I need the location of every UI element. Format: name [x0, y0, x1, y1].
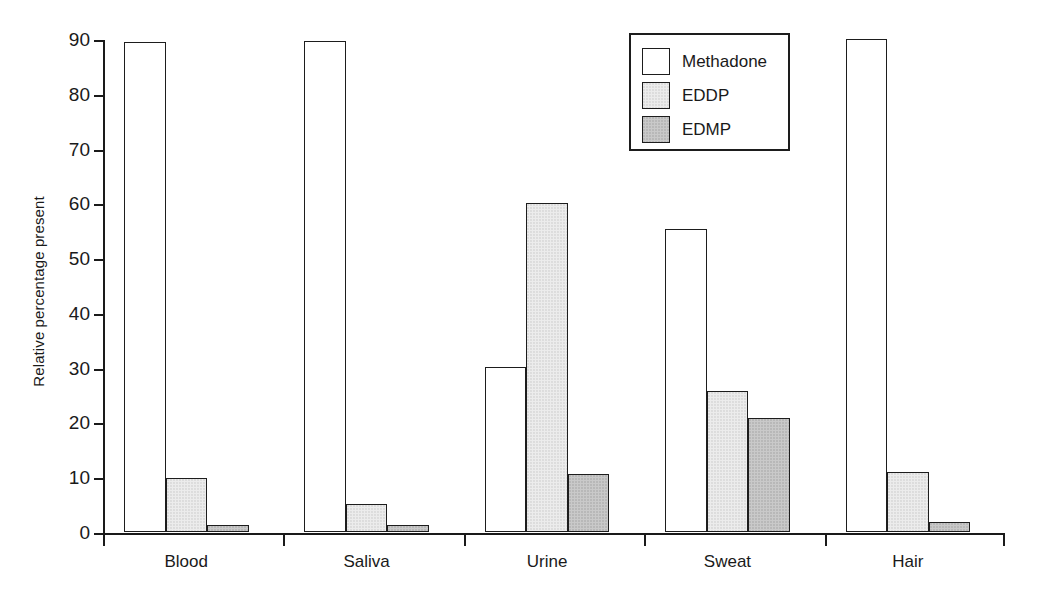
- x-tick-mark: [103, 535, 105, 546]
- bar: [387, 525, 429, 532]
- bar: [846, 39, 888, 532]
- x-axis-category-label: Sweat: [704, 552, 751, 572]
- y-tick-mark: [94, 369, 103, 371]
- y-tick-label: 50: [69, 248, 90, 270]
- y-tick-label: 60: [69, 193, 90, 215]
- y-tick-label: 70: [69, 139, 90, 161]
- y-tick-label: 0: [79, 522, 90, 544]
- y-tick-mark: [94, 478, 103, 480]
- y-axis-line: [103, 40, 105, 535]
- bar: [124, 42, 166, 532]
- y-tick-mark: [94, 259, 103, 261]
- x-axis-line: [103, 533, 1005, 535]
- y-tick-label: 80: [69, 84, 90, 106]
- legend-swatch: [642, 116, 670, 143]
- plot-area: 0102030405060708090 BloodSalivaUrineSwea…: [103, 40, 1005, 534]
- y-tick-mark: [94, 150, 103, 152]
- bar: [207, 525, 249, 532]
- x-tick-mark: [644, 535, 646, 546]
- x-tick-mark: [825, 535, 827, 546]
- bar: [929, 522, 971, 532]
- chart-legend: MethadoneEDDPEDMP: [629, 33, 790, 151]
- legend-item: Methadone: [642, 45, 788, 78]
- y-tick-label: 10: [69, 467, 90, 489]
- legend-label: EDMP: [682, 120, 731, 140]
- y-tick-label: 40: [69, 303, 90, 325]
- legend-swatch: [642, 48, 670, 75]
- bar: [568, 474, 610, 532]
- legend-item: EDMP: [642, 113, 788, 146]
- bar: [887, 472, 929, 532]
- y-tick-mark: [94, 423, 103, 425]
- y-axis-title: Relative percentage present: [30, 172, 47, 412]
- bar: [665, 229, 707, 532]
- bar: [707, 391, 749, 532]
- x-tick-mark: [283, 535, 285, 546]
- y-tick-mark: [94, 314, 103, 316]
- bar: [304, 41, 346, 532]
- y-tick-mark: [94, 40, 103, 42]
- legend-label: EDDP: [682, 86, 729, 106]
- y-tick-label: 20: [69, 412, 90, 434]
- bar-chart: Relative percentage present 010203040506…: [0, 0, 1039, 596]
- y-tick-mark: [94, 533, 103, 535]
- x-axis-category-label: Saliva: [343, 552, 389, 572]
- bar: [526, 203, 568, 532]
- y-tick-mark: [94, 204, 103, 206]
- x-axis-category-label: Hair: [892, 552, 923, 572]
- bar: [346, 504, 388, 532]
- y-tick-label: 90: [69, 29, 90, 51]
- y-tick-label: 30: [69, 358, 90, 380]
- legend-swatch: [642, 82, 670, 109]
- x-axis-category-label: Urine: [527, 552, 568, 572]
- bar: [748, 418, 790, 532]
- x-tick-mark: [1003, 535, 1005, 546]
- x-tick-mark: [464, 535, 466, 546]
- bar: [166, 478, 208, 532]
- y-tick-mark: [94, 95, 103, 97]
- legend-label: Methadone: [682, 52, 767, 72]
- bar: [485, 367, 527, 532]
- legend-item: EDDP: [642, 79, 788, 112]
- x-axis-category-label: Blood: [165, 552, 208, 572]
